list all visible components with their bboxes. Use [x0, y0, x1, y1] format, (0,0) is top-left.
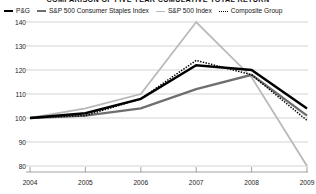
sp500-line-swatch-icon [156, 11, 165, 12]
composite-line-swatch-icon [219, 11, 228, 12]
plot-svg [0, 16, 316, 176]
y-axis-tick-label: 110 [2, 91, 26, 98]
chart-container: COMPARISON OF FIVE YEAR CUMULATIVE TOTAL… [0, 0, 316, 194]
y-axis-tick-label: 80 [2, 163, 26, 170]
y-axis-tick-label: 100 [2, 115, 26, 122]
pg-line-swatch-icon [4, 10, 13, 12]
legend-label-sp500: S&P 500 Index [168, 7, 212, 15]
legend-item-sp500[interactable]: S&P 500 Index [156, 7, 212, 15]
y-axis-tick-label: 130 [2, 43, 26, 50]
legend-label-pg: P&G [16, 7, 30, 15]
x-axis-tick-label: 2005 [65, 179, 105, 187]
plot-area [0, 16, 316, 176]
y-axis-tick-label: 120 [2, 67, 26, 74]
chart-title: COMPARISON OF FIVE YEAR CUMULATIVE TOTAL… [0, 0, 316, 5]
y-axis-tick-label: 90 [2, 139, 26, 146]
chart-legend: P&G S&P 500 Consumer Staples Index S&P 5… [4, 6, 312, 16]
x-axis-tick-label: 2008 [232, 179, 272, 187]
x-axis-tick-label: 2009 [287, 179, 316, 187]
staples-line-swatch-icon [37, 10, 46, 12]
x-axis-tick-label: 2006 [121, 179, 161, 187]
legend-label-consumer-staples: S&P 500 Consumer Staples Index [49, 7, 149, 15]
legend-label-composite-group: Composite Group [231, 7, 283, 15]
x-axis-tick-label: 2007 [176, 179, 216, 187]
y-axis-tick-label: 140 [2, 19, 26, 26]
legend-item-composite-group[interactable]: Composite Group [219, 7, 283, 15]
legend-item-pg[interactable]: P&G [4, 7, 30, 15]
x-axis-tick-label: 2004 [10, 179, 50, 187]
legend-item-consumer-staples[interactable]: S&P 500 Consumer Staples Index [37, 7, 149, 15]
